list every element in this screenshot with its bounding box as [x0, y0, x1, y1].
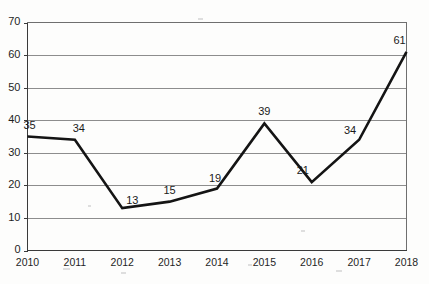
x-axis-tick-label: 2014: [205, 256, 229, 268]
y-axis-tick-label: 40: [8, 113, 20, 125]
y-axis-tick-label: 50: [8, 81, 20, 93]
y-axis-tick-label: 10: [8, 211, 20, 223]
data-point-label: 39: [258, 105, 270, 117]
x-axis-tick-label: 2017: [347, 256, 371, 268]
data-point-label: 21: [297, 164, 309, 176]
y-axis-tick-label: 60: [8, 48, 20, 60]
chart-canvas: 010203040506070 201020112012201320142015…: [0, 0, 429, 284]
x-axis-tick-label: 2012: [111, 256, 135, 268]
y-axis-tick-label: 30: [8, 146, 20, 158]
data-point-label: 61: [393, 34, 405, 46]
x-axis-tick-label: 2016: [300, 256, 324, 268]
data-point-label: 15: [164, 184, 176, 196]
data-point-label: 19: [209, 172, 221, 184]
data-point-label: 34: [73, 122, 85, 134]
line-chart: 010203040506070 201020112012201320142015…: [0, 0, 429, 284]
chart-background: [0, 0, 429, 284]
x-axis-tick-label: 2011: [64, 256, 87, 268]
x-axis-tick-label: 2010: [16, 256, 40, 268]
x-axis-tick-label: 2013: [158, 256, 182, 268]
x-axis-tick-labels: 201020112012201320142015201620172018: [16, 256, 419, 268]
data-point-label: 35: [23, 119, 35, 131]
y-axis-tick-label: 70: [8, 15, 20, 27]
data-point-label: 34: [344, 124, 356, 136]
y-axis-tick-label: 0: [14, 243, 20, 255]
x-axis-tick-label: 2015: [253, 256, 277, 268]
x-axis-tick-label: 2018: [395, 256, 419, 268]
y-axis-tick-label: 20: [8, 178, 20, 190]
data-point-label: 13: [126, 194, 138, 206]
